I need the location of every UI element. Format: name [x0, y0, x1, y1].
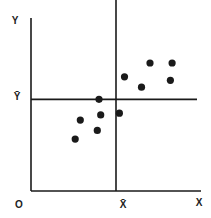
y-axis-label: Y: [12, 15, 19, 26]
data-point: [95, 96, 102, 103]
data-point: [121, 73, 128, 80]
scatter-chart: Y Ȳ O X̄ X: [0, 0, 211, 218]
mean-x-label: X̄: [120, 199, 127, 210]
data-point: [77, 116, 84, 123]
mean-y-label: Ȳ: [14, 91, 21, 102]
origin-label: O: [15, 199, 23, 210]
data-point: [97, 111, 104, 118]
data-point: [116, 110, 123, 117]
data-point: [72, 136, 79, 143]
data-point: [138, 84, 145, 91]
data-point: [167, 77, 174, 84]
data-points: [72, 59, 176, 142]
data-point: [169, 59, 176, 66]
data-point: [94, 127, 101, 134]
x-axis-label: X: [196, 197, 203, 208]
data-point: [146, 59, 153, 66]
